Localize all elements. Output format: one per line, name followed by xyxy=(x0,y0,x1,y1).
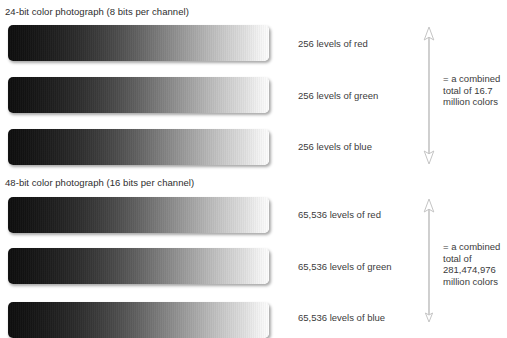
summary-24bit-line-3: million colors xyxy=(443,96,505,108)
channel-label-green-16bit: 65,536 levels of green xyxy=(298,261,391,272)
summary-48bit-line-1: = a combined xyxy=(443,241,505,253)
gradient-bar-green-16bit xyxy=(8,248,269,284)
section-title-24bit: 24-bit color photograph (8 bits per chan… xyxy=(5,6,189,17)
channel-label-red-16bit: 65,536 levels of red xyxy=(298,209,381,220)
double-arrow-icon-48bit xyxy=(421,199,437,322)
summary-48bit: = a combined total of 281,474,976 millio… xyxy=(443,241,505,287)
gradient-bar-red-8bit xyxy=(8,25,269,61)
channel-label-blue-16bit: 65,536 levels of blue xyxy=(298,312,385,323)
summary-24bit-line-2: total of 16.7 xyxy=(443,85,505,97)
summary-24bit: = a combined total of 16.7 million color… xyxy=(443,73,505,108)
summary-24bit-line-1: = a combined xyxy=(443,73,505,85)
summary-48bit-line-4: million colors xyxy=(443,276,505,288)
gradient-bar-red-16bit xyxy=(8,197,269,233)
channel-label-red-8bit: 256 levels of red xyxy=(298,38,368,49)
gradient-bar-blue-8bit xyxy=(8,129,269,165)
gradient-bar-blue-16bit xyxy=(8,302,269,338)
summary-48bit-line-2: total of xyxy=(443,253,505,265)
double-arrow-icon-24bit xyxy=(421,27,437,164)
channel-label-blue-8bit: 256 levels of blue xyxy=(298,141,372,152)
gradient-bar-green-8bit xyxy=(8,77,269,113)
section-title-48bit: 48-bit color photograph (16 bits per cha… xyxy=(5,177,194,188)
summary-48bit-line-3: 281,474,976 xyxy=(443,264,505,276)
channel-label-green-8bit: 256 levels of green xyxy=(298,90,378,101)
